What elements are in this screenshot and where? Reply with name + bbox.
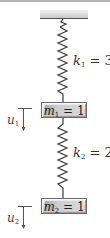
equals-sign: = [59, 104, 77, 118]
equals-sign: = [85, 145, 104, 160]
mass-1-label: m1 = 1 [42, 104, 86, 119]
mass-2-block: m2 = 1 [41, 198, 87, 214]
spring-1-label: k1 = 3 [73, 54, 110, 69]
mass-2-value: 1 [77, 200, 85, 214]
u1-symbol: u [7, 113, 15, 127]
u2-symbol: u [7, 211, 15, 225]
mass-2-symbol: m [43, 200, 54, 214]
u2-subscript: 2 [15, 218, 19, 226]
equals-sign: = [85, 53, 104, 68]
displacement-arrow-u1 [18, 109, 32, 132]
displacement-u2-label: u2 [7, 212, 19, 226]
spring-1 [58, 19, 67, 102]
mass-1-block: m1 = 1 [41, 102, 87, 118]
spring-2 [58, 118, 67, 198]
spring-2-label: k2 = 2 [73, 146, 110, 161]
mass-2-label: m2 = 1 [42, 200, 86, 215]
ceiling-support [40, 10, 88, 19]
spring-1-value: 3 [105, 53, 110, 68]
spring-2-value: 2 [105, 145, 110, 160]
displacement-arrow-u2 [18, 207, 32, 230]
mass-1-symbol: m [43, 104, 54, 118]
displacement-u1-label: u1 [7, 114, 19, 128]
u1-subscript: 1 [15, 120, 19, 128]
mass-1-value: 1 [77, 104, 85, 118]
equals-sign: = [59, 200, 77, 214]
spring-1-symbol: k [73, 53, 81, 68]
spring-2-symbol: k [73, 145, 81, 160]
